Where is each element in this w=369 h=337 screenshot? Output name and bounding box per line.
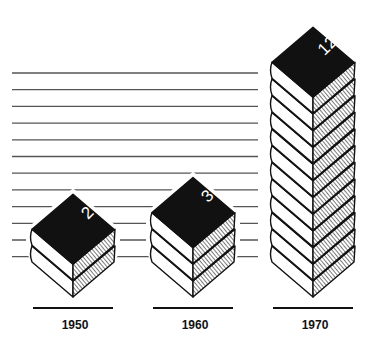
pictograph-chart: 2312: [0, 0, 369, 337]
year-label-1960: 1960: [155, 318, 235, 332]
book-stack-1950: 2: [26, 188, 120, 299]
book-stack-1970: 12: [266, 21, 360, 299]
year-label-1950: 1950: [35, 318, 115, 332]
book-stacks: 2312: [26, 21, 360, 299]
book-stack-1960: 3: [146, 172, 240, 299]
year-label-1970: 1970: [275, 318, 355, 332]
